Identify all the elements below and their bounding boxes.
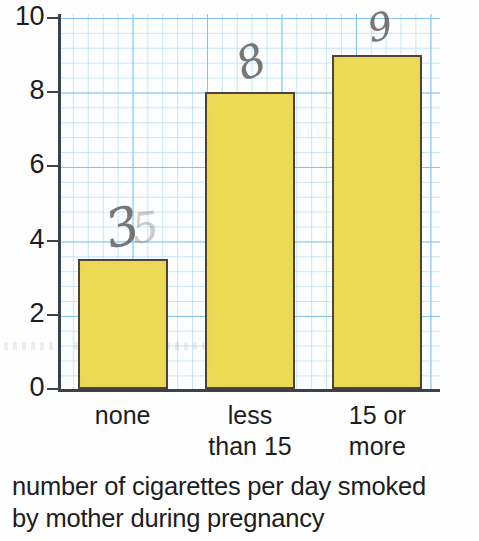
chart-caption: number of cigarettes per day smoked by m… <box>12 470 474 534</box>
x-axis-category-label: 15 ormore <box>310 400 444 462</box>
bar <box>332 55 422 389</box>
y-axis-labels: 1086420 <box>0 0 44 400</box>
y-axis-tick <box>47 314 59 316</box>
y-axis-tick-label: 10 <box>4 1 44 32</box>
category-label-line-2: more <box>310 431 444 462</box>
x-axis-line <box>58 389 440 392</box>
caption-line-1: number of cigarettes per day smoked <box>12 470 474 502</box>
category-label-line-2: than 15 <box>183 431 317 462</box>
y-axis-tick-label: 4 <box>4 224 44 255</box>
bar <box>78 259 168 389</box>
y-axis-tick-label: 0 <box>4 372 44 403</box>
y-axis-tick-label: 2 <box>4 298 44 329</box>
chart-page: 5389 1086420 nonelessthan 1515 ormore nu… <box>0 0 479 541</box>
caption-line-2: by mother during pregnancy <box>12 502 474 534</box>
x-axis-category-label: lessthan 15 <box>183 400 317 462</box>
x-axis-category-label: none <box>56 400 190 431</box>
y-axis-tick-label: 6 <box>4 149 44 180</box>
bar <box>205 92 295 389</box>
y-axis-tick-label: 8 <box>4 75 44 106</box>
y-axis-tick <box>47 165 59 167</box>
category-label-line-1: none <box>56 400 190 431</box>
category-label-line-1: 15 or <box>310 400 444 431</box>
y-axis-tick <box>47 388 59 390</box>
y-axis-tick <box>47 91 59 93</box>
category-label-line-1: less <box>183 400 317 431</box>
y-axis-line <box>58 14 61 392</box>
y-axis-tick <box>47 17 59 19</box>
y-axis-tick <box>47 240 59 242</box>
